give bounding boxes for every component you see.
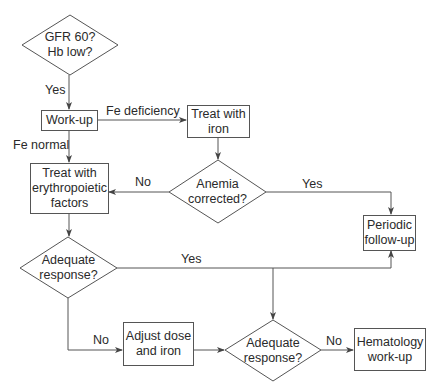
edge-label-adequate1-yes: Yes xyxy=(181,252,201,266)
workup-box: Work-up xyxy=(41,110,98,131)
flowchart-canvas: GFR 60? Hb low? Anemia corrected? Adequa… xyxy=(0,0,433,388)
edge-label-anemia-no: No xyxy=(135,175,151,189)
adequate-response-decision-1: Adequate response? xyxy=(20,237,117,298)
anemia-corrected-decision: Anemia corrected? xyxy=(169,160,266,223)
edge-label-adequate2-no: No xyxy=(326,334,342,348)
edge-label-gfr-yes: Yes xyxy=(45,83,65,97)
adequate-response-decision-2: Adequate response? xyxy=(225,320,321,381)
gfr-hb-decision: GFR 60? Hb low? xyxy=(22,15,118,75)
edge-label-fe-deficiency: Fe deficiency xyxy=(106,104,180,118)
edge-label-adequate1-no: No xyxy=(93,333,109,347)
edge-label-anemia-yes: Yes xyxy=(302,177,322,191)
adjust-dose-iron-box: Adjust dose and iron xyxy=(123,322,194,366)
periodic-followup-box: Periodic follow-up xyxy=(363,215,416,251)
treat-with-iron-box: Treat with iron xyxy=(187,105,250,138)
treat-erythropoietic-box: Treat with erythropoietic factors xyxy=(30,163,109,214)
hematology-workup-box: Hematology work-up xyxy=(354,328,426,371)
edge-label-fe-normal: Fe normal xyxy=(13,138,69,152)
